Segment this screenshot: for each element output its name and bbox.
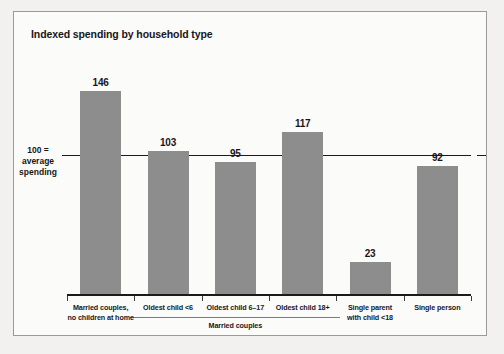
bar-2: [148, 151, 189, 294]
bar-1: [80, 91, 121, 294]
reference-label-line-1: 100 =: [14, 145, 62, 156]
reference-label-line-3: spending: [14, 167, 62, 178]
bar-4: [282, 132, 323, 294]
x-axis-tick-2: [202, 296, 203, 301]
reference-line-end-tick: [477, 155, 486, 156]
group-bracket-label: Married couples: [130, 321, 340, 330]
chart-title: Indexed spending by household type: [31, 28, 213, 40]
category-label-line-2: no children at home: [61, 313, 140, 323]
chart-frame: Indexed spending by household type 100 =…: [13, 11, 487, 336]
x-axis-tick-0: [67, 296, 68, 301]
bar-6: [417, 166, 458, 294]
x-axis-tick-3: [269, 296, 270, 301]
reference-axis-label: 100 = average spending: [14, 145, 62, 178]
bar-5: [350, 262, 391, 294]
bar-3: [215, 162, 256, 294]
bar-value-label-3: 95: [203, 148, 268, 159]
bar-value-label-6: 92: [405, 152, 470, 163]
x-axis-tick-1: [134, 296, 135, 301]
x-axis-tick-4: [336, 296, 337, 301]
plot-area: 146103951172392: [67, 72, 471, 294]
reference-label-line-2: average: [14, 156, 62, 167]
bar-value-label-1: 146: [68, 77, 133, 88]
bar-value-label-4: 117: [270, 118, 335, 129]
x-axis-tick-5: [404, 296, 405, 301]
x-axis-tick-6: [471, 296, 472, 301]
bar-value-label-5: 23: [338, 248, 403, 259]
category-label-6: Single person: [398, 303, 477, 313]
group-bracket-line: [130, 317, 340, 318]
category-label-line-1: Single person: [398, 303, 477, 313]
category-label-line-2: with child <18: [330, 313, 409, 323]
bar-value-label-2: 103: [136, 137, 201, 148]
